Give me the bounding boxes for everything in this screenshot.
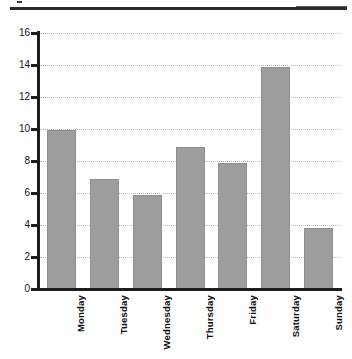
bar: [133, 195, 162, 289]
y-axis-tick: [31, 256, 38, 259]
gridline: [40, 129, 340, 130]
y-axis-tick: [31, 64, 38, 67]
y-axis-tick: [31, 192, 38, 195]
x-axis-category-label: Saturday: [290, 295, 301, 359]
bar: [218, 163, 247, 289]
bar: [304, 228, 333, 289]
y-axis-tick-label: 8: [6, 156, 30, 166]
bar: [90, 179, 119, 289]
top-rule-fragment: [17, 1, 22, 3]
y-axis-tick-label: 2: [6, 252, 30, 262]
x-axis-spine: [37, 288, 342, 291]
bar: [47, 130, 76, 289]
top-horizontal-rule-tail: [296, 6, 347, 7]
y-axis-tick: [31, 32, 38, 35]
y-axis-tick-label: 10: [6, 124, 30, 134]
y-axis-tick: [31, 224, 38, 227]
y-axis-tick-label: 4: [6, 220, 30, 230]
top-horizontal-rule: [10, 7, 347, 10]
x-axis-category-label: Friday: [247, 295, 258, 359]
x-axis-category-label: Sunday: [333, 295, 344, 359]
x-axis-category-label: Monday: [75, 295, 86, 359]
y-axis-tick: [31, 288, 38, 291]
y-axis-tick: [31, 96, 38, 99]
x-axis-category-label: Tuesday: [118, 295, 129, 359]
bar: [261, 67, 290, 289]
y-axis-tick: [31, 160, 38, 163]
x-axis-category-label: Wednesday: [161, 295, 172, 359]
y-axis-tick-label: 16: [6, 28, 30, 38]
y-axis-tick: [31, 128, 38, 131]
bar: [176, 147, 205, 289]
bar-chart: 0246810121416MondayTuesdayWednesdayThurs…: [0, 0, 352, 359]
y-axis-tick-label: 12: [6, 92, 30, 102]
gridline: [40, 65, 340, 66]
gridline: [40, 97, 340, 98]
x-axis-category-label: Thursday: [204, 295, 215, 359]
y-axis-tick-label: 14: [6, 60, 30, 70]
y-axis-tick-label: 0: [6, 284, 30, 294]
plot-area: [40, 33, 340, 289]
y-axis-tick-label: 6: [6, 188, 30, 198]
gridline: [40, 33, 340, 34]
